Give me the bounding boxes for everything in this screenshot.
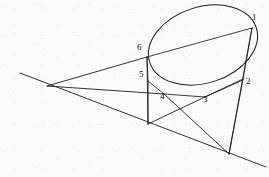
vertex-label-5: 5 — [139, 70, 144, 79]
pascal-line — [20, 73, 266, 167]
geometry-figure: 1 2 3 4 5 6 — [0, 0, 269, 177]
hexagon-side-3-4 — [164, 94, 205, 97]
vertex-label-1: 1 — [252, 13, 257, 22]
connector-mid-to-3 — [148, 97, 205, 124]
extension-side-1-2-full — [229, 28, 252, 154]
vertex-label-6: 6 — [137, 43, 142, 52]
vertex-label-4: 4 — [160, 92, 165, 101]
extension-side-6-1 — [47, 57, 147, 86]
hexagon-side-6-1 — [147, 28, 252, 57]
vertex-label-2: 2 — [246, 77, 251, 86]
figure-canvas — [0, 0, 269, 177]
extension-side-2-3 — [164, 94, 229, 154]
extension-side-5-6-down — [147, 57, 148, 124]
vertex-label-3: 3 — [203, 95, 208, 104]
